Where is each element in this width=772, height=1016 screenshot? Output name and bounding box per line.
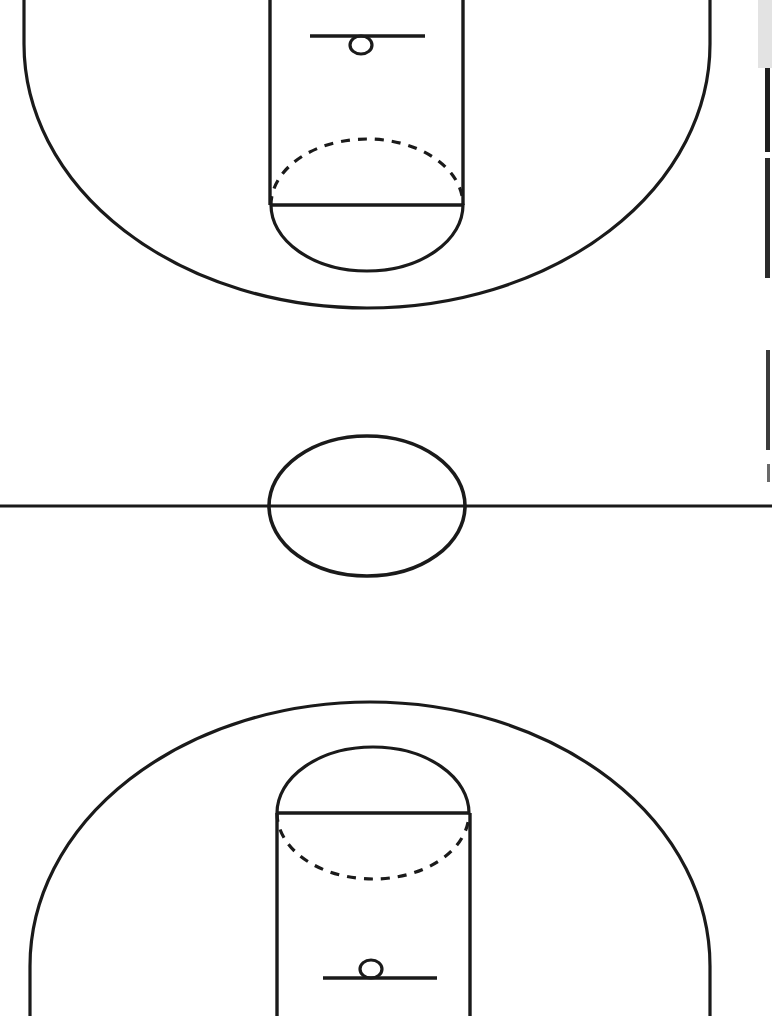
dark-edge-line-mid	[765, 158, 770, 278]
top-three-point-arc	[24, 0, 710, 308]
gray-block-top-right	[758, 0, 772, 68]
bottom-free-throw-circle-dashed-half	[277, 813, 469, 879]
basketball-court-diagram	[0, 0, 772, 1016]
top-hoop	[350, 36, 372, 54]
top-half-court	[24, 0, 710, 308]
bottom-free-throw-circle-solid-half	[277, 747, 469, 813]
bottom-hoop	[360, 960, 382, 978]
dark-edge-line-upper	[765, 68, 770, 152]
top-free-throw-circle-dashed-half	[271, 139, 463, 205]
center-court	[0, 436, 772, 576]
soft-edge-mark	[767, 464, 770, 482]
bottom-three-point-arc	[30, 702, 710, 1016]
dark-edge-line-lower	[766, 350, 770, 450]
court-svg	[0, 0, 772, 1016]
top-free-throw-circle-solid-half	[271, 205, 463, 271]
bottom-half-court	[30, 702, 710, 1016]
